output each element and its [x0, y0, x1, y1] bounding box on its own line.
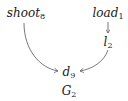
edge-l2-d9: [80, 50, 108, 71]
node-shoot8: shoot8: [7, 7, 45, 21]
node-load1: load1: [93, 7, 124, 21]
node-l2: l2: [104, 36, 113, 50]
diagram-title: G2: [62, 85, 77, 99]
edge-shoot8-d9: [24, 23, 58, 71]
node-d9: d9: [63, 66, 76, 80]
